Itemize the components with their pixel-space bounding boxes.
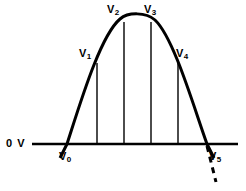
sample-label-v2-base: V <box>107 3 114 15</box>
sample-label-v5: V5 <box>209 151 221 162</box>
sample-label-v1-base: V <box>79 47 86 59</box>
sample-label-v5-base: V <box>209 150 216 162</box>
zero-volt-axis-label: 0 V <box>6 138 26 149</box>
waveform-curve <box>60 14 214 158</box>
sample-label-v5-sub: 5 <box>217 155 221 164</box>
waveform-figure: 0 V V0 V1 V2 V3 V4 V5 <box>0 0 246 191</box>
sample-label-v0: V0 <box>59 151 71 162</box>
sample-label-v4-base: V <box>176 47 183 59</box>
waveform-diagram <box>0 0 246 191</box>
sample-label-v4: V4 <box>176 48 188 59</box>
sample-label-v2: V2 <box>107 4 119 15</box>
sample-label-v3: V3 <box>144 4 156 15</box>
sample-label-v0-sub: 0 <box>67 155 71 164</box>
sample-label-v3-sub: 3 <box>152 8 156 17</box>
sample-label-v1-sub: 1 <box>87 52 91 61</box>
sample-label-v0-base: V <box>59 150 66 162</box>
sample-label-v4-sub: 4 <box>184 52 188 61</box>
sample-label-v3-base: V <box>144 3 151 15</box>
sample-label-v1: V1 <box>79 48 91 59</box>
sample-label-v2-sub: 2 <box>115 8 119 17</box>
